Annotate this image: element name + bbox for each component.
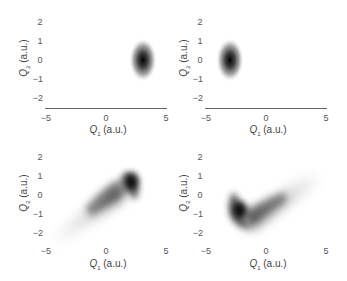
panel-bottom-left: 2 1 0 −1 −2 −5 0 5 Q1 (a.u.) Q2 (a.u.) — [0, 140, 172, 280]
x-axis-line — [45, 108, 167, 109]
y-tick: 2 — [37, 152, 42, 162]
y-tick: 0 — [197, 190, 202, 200]
x-axis-label: Q1 (a.u.) — [89, 124, 126, 137]
x-tick: 0 — [103, 113, 108, 123]
x-tick: −5 — [41, 246, 51, 256]
x-tick: 0 — [103, 246, 108, 256]
x-tick: −5 — [201, 113, 211, 123]
panel-top-left: 2 1 0 −1 −2 −5 0 5 Q1 (a.u.) Q2 (a.u.) — [0, 0, 172, 140]
x-axis-label: Q1 (a.u.) — [249, 124, 286, 137]
panel-top-right: 2 1 0 −1 −2 −5 0 5 Q1 (a.u.) Q2 (a.u.) — [172, 0, 344, 140]
x-tick: 5 — [323, 246, 328, 256]
x-tick: 5 — [323, 113, 328, 123]
y-tick: −2 — [33, 228, 43, 238]
y-tick: 1 — [37, 171, 42, 181]
y-tick: −1 — [33, 209, 43, 219]
y-tick: 1 — [197, 171, 202, 181]
y-tick: 1 — [37, 36, 42, 46]
y-axis-label: Q2 (a.u.) — [18, 39, 31, 76]
y-tick: 2 — [37, 17, 42, 27]
panel-bottom-right: 2 1 0 −1 −2 −5 0 5 Q1 (a.u.) Q2 (a.u.) — [172, 140, 344, 280]
y-tick: 2 — [197, 17, 202, 27]
y-axis-label: Q2 (a.u.) — [178, 39, 191, 76]
x-axis-label: Q1 (a.u.) — [89, 258, 126, 271]
x-tick: 5 — [163, 113, 168, 123]
y-tick: 0 — [37, 55, 42, 65]
y-tick: 0 — [197, 55, 202, 65]
y-tick: −2 — [193, 228, 203, 238]
x-tick: 0 — [263, 113, 268, 123]
x-tick: −5 — [41, 113, 51, 123]
y-axis-label: Q2 (a.u.) — [18, 174, 31, 211]
y-tick: −2 — [193, 93, 203, 103]
x-tick: 5 — [163, 246, 168, 256]
y-tick: −1 — [193, 74, 203, 84]
x-axis-line — [205, 108, 327, 109]
y-tick: −1 — [33, 74, 43, 84]
y-tick: 1 — [197, 36, 202, 46]
y-tick: 0 — [37, 190, 42, 200]
x-axis-label: Q1 (a.u.) — [249, 258, 286, 271]
y-tick: −2 — [33, 93, 43, 103]
x-tick: 0 — [263, 246, 268, 256]
y-tick: −1 — [193, 209, 203, 219]
y-tick: 2 — [197, 152, 202, 162]
x-tick: −5 — [201, 246, 211, 256]
y-axis-label: Q2 (a.u.) — [178, 174, 191, 211]
